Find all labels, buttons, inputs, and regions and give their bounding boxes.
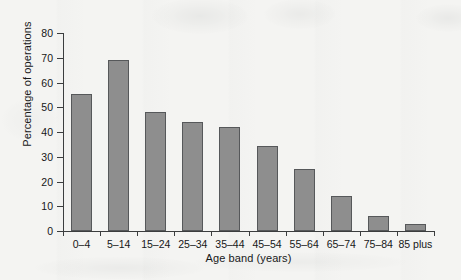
x-tick-label: 35–44 — [215, 238, 244, 250]
x-tick-mark — [323, 231, 324, 236]
y-tick-mark — [57, 132, 63, 133]
x-tick-label: 85 plus — [399, 238, 433, 250]
x-tick-mark — [137, 231, 138, 236]
x-tick-label: 55–64 — [290, 238, 319, 250]
bar — [182, 122, 203, 231]
bar-chart: Percentage of operations Age band (years… — [0, 0, 461, 280]
y-tick-mark — [57, 83, 63, 84]
x-tick-mark — [249, 231, 250, 236]
x-tick-label: 25–34 — [178, 238, 207, 250]
y-tick-mark — [57, 58, 63, 59]
y-tick-label: 0 — [5, 225, 53, 237]
x-tick-label: 15–24 — [141, 238, 170, 250]
y-tick-mark — [57, 33, 63, 34]
y-tick-label: 80 — [5, 27, 53, 39]
x-tick-mark — [211, 231, 212, 236]
y-tick-label: 60 — [5, 77, 53, 89]
bar — [368, 216, 389, 231]
y-tick-label: 50 — [5, 101, 53, 113]
y-tick-label: 20 — [5, 176, 53, 188]
bar — [405, 224, 426, 231]
x-tick-mark — [174, 231, 175, 236]
x-tick-label: 45–54 — [252, 238, 281, 250]
bar — [294, 169, 315, 231]
y-tick-label: 40 — [5, 126, 53, 138]
x-tick-mark — [397, 231, 398, 236]
y-tick-mark — [57, 206, 63, 207]
y-tick-mark — [57, 107, 63, 108]
x-tick-mark — [63, 231, 64, 236]
y-axis-line — [63, 33, 64, 232]
bar — [145, 112, 166, 231]
x-tick-mark — [286, 231, 287, 236]
x-tick-mark — [434, 231, 435, 236]
bar — [71, 94, 92, 231]
y-tick-label: 10 — [5, 200, 53, 212]
y-tick-mark — [57, 157, 63, 158]
x-tick-label: 0–4 — [73, 238, 91, 250]
y-tick-label: 30 — [5, 151, 53, 163]
bar — [331, 196, 352, 231]
bar — [257, 146, 278, 231]
x-tick-mark — [360, 231, 361, 236]
x-tick-label: 75–84 — [364, 238, 393, 250]
y-tick-label: 70 — [5, 52, 53, 64]
x-tick-label: 5–14 — [107, 238, 130, 250]
x-tick-mark — [100, 231, 101, 236]
y-tick-mark — [57, 182, 63, 183]
bar — [219, 127, 240, 231]
x-tick-label: 65–74 — [327, 238, 356, 250]
bar — [108, 60, 129, 231]
x-axis-title: Age band (years) — [63, 252, 434, 264]
